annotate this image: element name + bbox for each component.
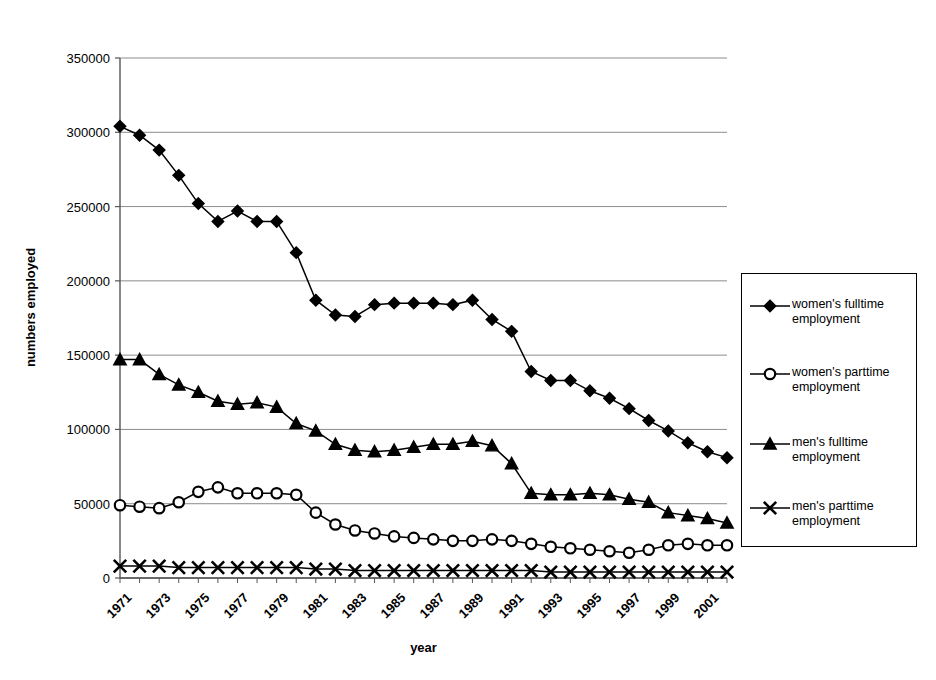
data-point-circle xyxy=(765,369,775,379)
circle-marker-icon xyxy=(748,364,792,384)
data-point-circle xyxy=(252,488,262,498)
data-point-circle xyxy=(722,540,732,550)
legend-label-line1: men's fulltime xyxy=(792,435,868,449)
legend-item-label: men's fulltime employment xyxy=(792,434,868,465)
data-point-circle xyxy=(565,543,575,553)
data-point-diamond xyxy=(584,385,595,396)
data-point-circle xyxy=(350,525,360,535)
data-point-circle xyxy=(702,540,712,550)
data-point-diamond xyxy=(545,375,556,386)
legend-label-line2: employment xyxy=(792,514,860,528)
data-point-circle xyxy=(624,548,634,558)
chart-legend: women's fulltime employment women's part… xyxy=(741,273,917,547)
data-point-diamond xyxy=(428,298,439,309)
data-point-circle xyxy=(683,539,693,549)
data-point-circle xyxy=(154,503,164,513)
data-point-diamond xyxy=(408,298,419,309)
data-point-circle xyxy=(389,531,399,541)
data-point-circle xyxy=(643,545,653,555)
data-point-diamond xyxy=(643,415,654,426)
triangle-marker-icon xyxy=(748,434,792,454)
data-point-circle xyxy=(526,539,536,549)
data-point-diamond xyxy=(232,205,243,216)
legend-item-mens-parttime[interactable]: men's parttime employment xyxy=(748,498,914,529)
triangle-glyph xyxy=(748,434,792,454)
data-point-diamond xyxy=(291,247,302,258)
data-point-circle xyxy=(232,488,242,498)
legend-item-mens-fulltime[interactable]: men's fulltime employment xyxy=(748,434,914,465)
data-point-diamond xyxy=(114,121,125,132)
data-point-circle xyxy=(193,487,203,497)
legend-label-line2: employment xyxy=(792,312,860,326)
legend-item-womens-parttime[interactable]: women's parttime employment xyxy=(748,364,914,395)
y-tick-label: 150000 xyxy=(0,348,110,363)
data-point-circle xyxy=(546,542,556,552)
data-point-diamond xyxy=(271,216,282,227)
legend-label-line1: men's parttime xyxy=(792,499,874,513)
legend-label-line1: women's parttime xyxy=(792,365,890,379)
series-0 xyxy=(114,121,732,464)
diamond-glyph xyxy=(748,296,792,316)
data-point-diamond xyxy=(310,295,321,306)
data-point-circle xyxy=(585,545,595,555)
y-tick-label: 100000 xyxy=(0,422,110,437)
data-point-circle xyxy=(330,519,340,529)
data-point-circle xyxy=(409,533,419,543)
data-point-diamond xyxy=(134,130,145,141)
data-point-triangle xyxy=(525,487,537,498)
y-tick-label: 200000 xyxy=(0,273,110,288)
legend-item-label: women's parttime employment xyxy=(792,364,890,395)
y-tick-label: 50000 xyxy=(0,496,110,511)
x-axis-title: year xyxy=(364,640,484,655)
data-point-triangle xyxy=(584,487,596,498)
circle-glyph xyxy=(748,364,792,384)
diamond-marker-icon xyxy=(748,296,792,316)
data-point-triangle xyxy=(212,395,224,406)
legend-label-line2: employment xyxy=(792,380,860,394)
y-tick-label: 300000 xyxy=(0,125,110,140)
data-point-circle xyxy=(311,507,321,517)
data-point-circle xyxy=(428,534,438,544)
data-point-diamond xyxy=(623,403,634,414)
data-point-circle xyxy=(134,501,144,511)
data-point-circle xyxy=(271,488,281,498)
data-point-diamond xyxy=(330,309,341,320)
data-point-triangle xyxy=(251,396,263,407)
data-point-circle xyxy=(604,546,614,556)
employment-line-chart: numbers employed 05000010000015000020000… xyxy=(0,0,936,680)
data-point-triangle xyxy=(466,435,478,446)
data-point-circle xyxy=(213,482,223,492)
data-point-diamond xyxy=(369,299,380,310)
data-point-circle xyxy=(115,500,125,510)
legend-label-line1: women's fulltime xyxy=(792,297,884,311)
data-point-triangle xyxy=(662,506,674,517)
data-point-circle xyxy=(369,528,379,538)
data-point-circle xyxy=(467,536,477,546)
data-point-diamond xyxy=(526,366,537,377)
legend-item-label: women's fulltime employment xyxy=(792,296,884,327)
data-point-diamond xyxy=(721,452,732,463)
data-point-circle xyxy=(487,534,497,544)
data-point-diamond xyxy=(604,393,615,404)
series-3 xyxy=(114,560,733,578)
series-line xyxy=(120,126,727,457)
cross-glyph xyxy=(748,498,792,518)
data-point-triangle xyxy=(192,386,204,397)
data-point-circle xyxy=(174,497,184,507)
data-point-diamond xyxy=(565,375,576,386)
cross-marker-icon xyxy=(748,498,792,518)
legend-label-line2: employment xyxy=(792,450,860,464)
data-point-circle xyxy=(506,536,516,546)
data-point-circle xyxy=(448,536,458,546)
data-point-triangle xyxy=(310,425,322,436)
data-point-diamond xyxy=(663,425,674,436)
data-point-triangle xyxy=(153,368,165,379)
data-point-triangle xyxy=(173,379,185,390)
legend-item-womens-fulltime[interactable]: women's fulltime employment xyxy=(748,296,914,327)
data-point-circle xyxy=(663,540,673,550)
y-tick-label: 0 xyxy=(0,571,110,586)
data-point-circle xyxy=(291,490,301,500)
data-point-diamond xyxy=(764,300,775,311)
series-line xyxy=(120,487,727,552)
data-point-diamond xyxy=(447,299,458,310)
